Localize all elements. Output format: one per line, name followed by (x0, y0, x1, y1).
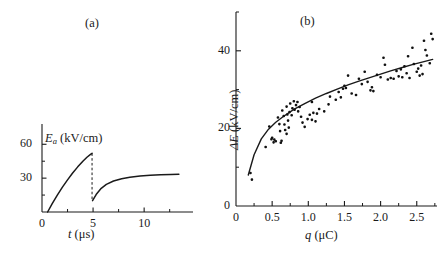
panel-b-data-point (372, 90, 375, 93)
panel-b-data-point (405, 72, 408, 75)
panel-b-data-point (301, 121, 304, 124)
panel-b-data-point (401, 76, 404, 79)
panel-b-x-tick-label: 1.5 (330, 210, 358, 225)
panel-b-data-point (278, 123, 281, 126)
panel-b-data-point (290, 114, 293, 117)
panel-b-data-point (400, 68, 403, 71)
panel-b-data-point (337, 91, 340, 94)
panel-a-curve (48, 153, 92, 212)
panel-b-data-point (342, 88, 345, 91)
panel-b-data-point (288, 111, 291, 114)
panel-b-data-point (407, 55, 410, 58)
panel-b-data-point (334, 98, 337, 101)
panel-b-fit-curve (248, 59, 432, 175)
panel-b-data-point (358, 77, 361, 80)
panel-b-data-point (271, 136, 274, 139)
panel-b-data-point (329, 95, 332, 98)
panel-b-data-point (293, 100, 296, 103)
panel-a-x-tick-label: 10 (132, 216, 156, 231)
panel-b-data-point (369, 89, 372, 92)
panel-b-data-point (366, 81, 369, 84)
panel-b-data-point (323, 110, 326, 113)
panel-b-data-point (316, 112, 319, 115)
panel-b-data-point (382, 56, 385, 59)
panel-b-x-tick-label: 1.0 (294, 210, 322, 225)
panel-b-data-point (403, 65, 406, 68)
panel-b: (b) ΔE (kV/cm) q (μC) 00.51.01.52.02.502… (215, 0, 445, 260)
panel-b-x-tick-label: 0.5 (258, 210, 286, 225)
panel-b-data-point (312, 112, 315, 115)
panel-b-data-point (281, 109, 284, 112)
panel-b-data-point (296, 101, 299, 104)
panel-b-data-point (282, 115, 285, 118)
panel-b-data-point (291, 107, 294, 110)
panel-b-data-point (287, 119, 290, 122)
panel-a-x-tick-label: 5 (81, 216, 105, 231)
panel-a-y-tick-label: 30 (14, 170, 38, 185)
panel-b-data-point (376, 74, 379, 77)
panel-b-data-point (280, 140, 283, 143)
panel-b-data-point (311, 101, 314, 104)
panel-b-data-point (418, 74, 421, 77)
panel-b-data-point (286, 113, 289, 116)
panel-b-data-point (318, 108, 321, 111)
panel-b-data-point (411, 46, 414, 49)
panel-b-data-point (384, 63, 387, 66)
panel-b-data-point (426, 54, 429, 57)
panel-b-data-point (371, 86, 374, 89)
panel-b-data-point (285, 133, 288, 136)
panel-b-data-point (249, 172, 252, 175)
panel-b-data-point (268, 125, 271, 128)
panel-b-y-tick-label: 40 (204, 43, 230, 58)
panel-b-data-point (379, 76, 382, 79)
panel-b-data-point (295, 104, 298, 107)
panel-b-data-point (431, 38, 434, 41)
panel-b-data-point (415, 70, 418, 73)
panel-b-data-point (392, 77, 395, 80)
panel-b-y-tick-label: 20 (204, 120, 230, 135)
panel-a-y-axis-title: Ea (kV/cm) (45, 131, 102, 146)
panel-b-x-tick-label: 2.5 (403, 210, 431, 225)
panel-a: (a) Ea (kV/cm) t (μs) 05103060 (0, 0, 215, 260)
panel-b-data-point (420, 64, 423, 67)
panel-b-data-point (421, 73, 424, 76)
panel-b-data-point (274, 140, 277, 143)
panel-b-data-point (347, 74, 350, 77)
panel-b-data-point (413, 63, 416, 66)
panel-b-data-point (303, 126, 306, 129)
figure-container: (a) Ea (kV/cm) t (μs) 05103060 (b) ΔE (k… (0, 0, 445, 260)
panel-b-data-point (297, 110, 300, 113)
panel-b-data-point (300, 115, 303, 118)
panel-b-data-point (287, 126, 290, 129)
panel-b-data-point (361, 83, 364, 86)
panel-a-y-tick-label: 60 (14, 136, 38, 151)
panel-b-data-point (423, 39, 426, 42)
panel-b-data-point (279, 130, 282, 133)
panel-b-data-point (251, 178, 254, 181)
panel-b-data-point (340, 96, 343, 99)
panel-b-data-point (350, 92, 353, 95)
panel-b-data-point (345, 87, 348, 90)
panel-b-data-point (306, 118, 309, 121)
panel-b-data-point (314, 120, 317, 123)
panel-b-x-tick-label: 2.0 (367, 210, 395, 225)
panel-b-data-point (417, 67, 420, 70)
panel-b-data-point (389, 77, 392, 80)
panel-b-data-point (355, 94, 358, 97)
panel-b-data-point (397, 75, 400, 78)
panel-b-data-point (289, 102, 292, 105)
panel-b-data-point (298, 106, 301, 109)
panel-b-data-point (430, 32, 433, 35)
panel-b-data-point (343, 84, 346, 87)
panel-b-data-point (285, 105, 288, 108)
panel-b-y-tick-label: 0 (204, 198, 230, 213)
panel-b-data-point (395, 70, 398, 73)
panel-b-x-axis-title: q (μC) (305, 228, 338, 243)
panel-b-data-point (408, 77, 411, 80)
panel-b-data-point (308, 114, 311, 117)
panel-b-data-point (428, 62, 431, 65)
panel-a-curve (93, 174, 179, 201)
panel-b-data-point (327, 103, 330, 106)
panel-b-data-point (387, 78, 390, 81)
panel-b-data-point (284, 129, 287, 132)
